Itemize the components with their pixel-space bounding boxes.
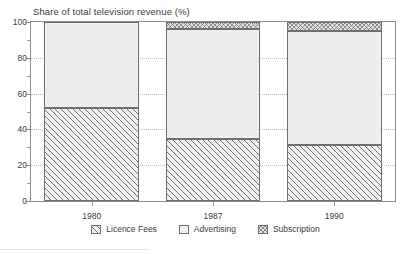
- y-axis-tick-label: 80: [0, 53, 27, 63]
- bar-stack[interactable]: [166, 22, 261, 201]
- legend-label: Subscription: [273, 224, 320, 234]
- x-axis-tick-mark: [213, 202, 214, 206]
- x-axis-tick-mark: [92, 202, 93, 206]
- legend-label: Advertising: [194, 224, 236, 234]
- bar-stack[interactable]: [44, 22, 139, 201]
- y-axis-tick-label: 100: [0, 17, 27, 27]
- bar-segment[interactable]: [287, 31, 382, 145]
- bar-segment[interactable]: [44, 108, 139, 201]
- y-axis-tick-label: 20: [0, 160, 27, 170]
- legend-item[interactable]: Licence Fees: [91, 224, 157, 234]
- y-axis-tick-label: 40: [0, 124, 27, 134]
- legend-item[interactable]: Subscription: [258, 224, 320, 234]
- y-axis-tick-label: 0: [0, 196, 27, 206]
- legend-swatch-icon: [258, 225, 268, 234]
- scan-edge-artifact: [0, 249, 150, 250]
- x-axis-tick-label: 1980: [82, 211, 101, 221]
- bar-segment[interactable]: [287, 145, 382, 201]
- legend-label: Licence Fees: [106, 224, 157, 234]
- legend-swatch-icon: [179, 225, 189, 234]
- x-axis-tick-label: 1987: [204, 211, 223, 221]
- bar-stack[interactable]: [287, 22, 382, 201]
- bar-segment[interactable]: [287, 22, 382, 31]
- bar-segment[interactable]: [166, 29, 261, 139]
- bar-segment[interactable]: [166, 139, 261, 201]
- chart-legend: Licence FeesAdvertisingSubscription: [0, 224, 411, 234]
- plot-area: [30, 21, 396, 202]
- bar-segment[interactable]: [166, 22, 261, 29]
- y-axis-tick-label: 60: [0, 89, 27, 99]
- legend-swatch-icon: [91, 225, 101, 234]
- legend-item[interactable]: Advertising: [179, 224, 236, 234]
- x-axis-tick-mark: [334, 202, 335, 206]
- chart-title: Share of total television revenue (%): [33, 6, 190, 17]
- x-axis-tick-label: 1990: [325, 211, 344, 221]
- bar-segment[interactable]: [44, 22, 139, 108]
- chart-figure: Share of total television revenue (%) 10…: [0, 0, 411, 254]
- plot-inner: [31, 22, 395, 201]
